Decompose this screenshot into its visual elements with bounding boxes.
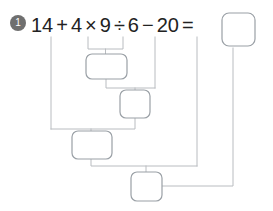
worksheet-page: 1 14 + 4 × 9 ÷ 6 − 20 = xyxy=(0,0,273,211)
answer-input-box[interactable] xyxy=(222,13,255,46)
step-4-input-box[interactable] xyxy=(131,172,162,201)
step-2-input-box[interactable] xyxy=(120,90,150,118)
order-of-operations-diagram xyxy=(0,0,273,211)
step-1-input-box[interactable] xyxy=(86,54,127,79)
connector-multiply-bracket xyxy=(88,37,123,49)
step-3-input-box[interactable] xyxy=(72,131,112,159)
connector-step2-to-step3 xyxy=(51,117,135,129)
